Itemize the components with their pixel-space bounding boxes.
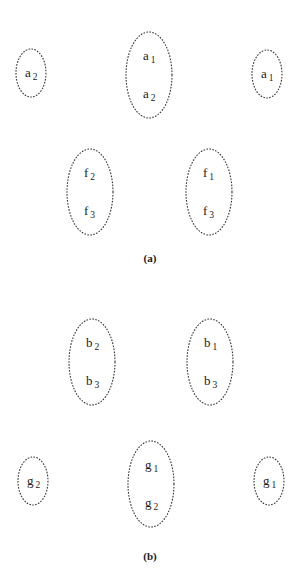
variable-label: b3 bbox=[204, 373, 218, 390]
variable-label: g1 bbox=[263, 473, 277, 490]
variable-label: g2 bbox=[145, 495, 159, 512]
variable-label: f3 bbox=[203, 203, 214, 220]
dashed-ellipse bbox=[16, 49, 46, 97]
variable-label: f3 bbox=[84, 203, 95, 220]
dashed-ellipse bbox=[186, 149, 232, 235]
group-g-right: g1 bbox=[254, 457, 284, 505]
variable-label: f1 bbox=[203, 165, 214, 182]
dashed-ellipse bbox=[67, 149, 113, 235]
group-f-right: f1f3 bbox=[186, 149, 232, 235]
variable-label: g1 bbox=[145, 457, 159, 474]
dashed-ellipse bbox=[128, 441, 174, 527]
group-a-right: a1 bbox=[252, 50, 282, 98]
panel-caption: (b) bbox=[143, 550, 157, 563]
group-g-center: g1g2 bbox=[128, 441, 174, 527]
variable-label: b1 bbox=[204, 335, 218, 352]
panel-a: a2a1a2a1f2f3f1f3(a) bbox=[16, 32, 282, 265]
group-f-left: f2f3 bbox=[67, 149, 113, 235]
variable-label: a2 bbox=[143, 86, 156, 103]
panel-caption: (a) bbox=[144, 252, 157, 265]
variable-label: g2 bbox=[27, 473, 41, 490]
dashed-ellipse bbox=[69, 319, 115, 405]
dashed-ellipse bbox=[126, 32, 172, 118]
variable-label: b2 bbox=[86, 335, 100, 352]
dashed-ellipse bbox=[252, 50, 282, 98]
group-a-center: a1a2 bbox=[126, 32, 172, 118]
variable-label: b3 bbox=[86, 373, 100, 390]
variable-label: a1 bbox=[143, 48, 156, 65]
variable-label: a1 bbox=[261, 66, 274, 83]
panel-b: b2b3b1b3g2g1g2g1(b) bbox=[18, 319, 284, 563]
variable-label: a2 bbox=[25, 65, 38, 82]
dashed-ellipse bbox=[187, 319, 233, 405]
variable-label: f2 bbox=[84, 165, 95, 182]
group-b-left: b2b3 bbox=[69, 319, 115, 405]
diagram-canvas: a2a1a2a1f2f3f1f3(a)b2b3b1b3g2g1g2g1(b) bbox=[0, 0, 301, 581]
group-a-left: a2 bbox=[16, 49, 46, 97]
group-g-left: g2 bbox=[18, 457, 48, 505]
group-b-right: b1b3 bbox=[187, 319, 233, 405]
